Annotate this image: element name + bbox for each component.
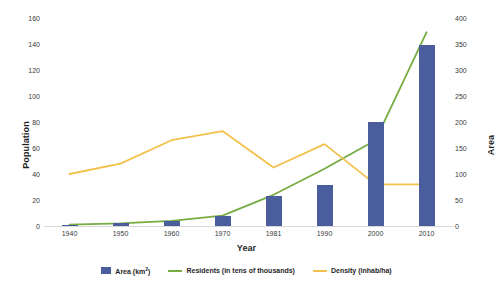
legend-swatch-bar-icon: [101, 267, 111, 274]
y-tick-right-200: 200: [455, 119, 467, 126]
y-tick-left-80: 80: [32, 119, 40, 126]
x-axis-title: Year: [0, 243, 493, 253]
y-tick-left-120: 120: [28, 67, 40, 74]
y-tick-right-300: 300: [455, 67, 467, 74]
bar-1981: [266, 196, 282, 226]
line-series-svg: [44, 18, 452, 226]
y-tick-right-400: 400: [455, 15, 467, 22]
y-axis-left-ticks: 020406080100120140160: [18, 0, 40, 290]
y-axis-right-ticks: 050100150200250300350400: [455, 0, 481, 290]
y-tick-left-160: 160: [28, 15, 40, 22]
x-tick-1950: 1950: [113, 230, 129, 237]
y-tick-left-20: 20: [32, 197, 40, 204]
legend-item-area[interactable]: Area (km2): [101, 266, 150, 275]
y-tick-right-150: 150: [455, 145, 467, 152]
y-axis-title-right: Area: [486, 135, 496, 155]
legend-item-density[interactable]: Density (inhab/ha): [313, 267, 392, 274]
chart-legend: Area (km2)Residents (in tens of thousand…: [0, 266, 493, 275]
x-tick-2000: 2000: [368, 230, 384, 237]
y-tick-right-250: 250: [455, 93, 467, 100]
y-tick-left-60: 60: [32, 145, 40, 152]
x-tick-1981: 1981: [266, 230, 282, 237]
legend-swatch-line-icon: [168, 270, 182, 272]
y-tick-left-100: 100: [28, 93, 40, 100]
legend-swatch-line-icon: [313, 270, 327, 272]
y-tick-right-350: 350: [455, 41, 467, 48]
bar-1960: [164, 221, 180, 226]
y-tick-right-0: 0: [455, 223, 459, 230]
y-tick-left-0: 0: [36, 223, 40, 230]
bar-1940: [62, 225, 78, 227]
plot-area: [44, 18, 452, 226]
legend-label: Density (inhab/ha): [331, 267, 392, 274]
x-tick-1990: 1990: [317, 230, 333, 237]
legend-item-residents[interactable]: Residents (in tens of thousands): [168, 267, 295, 274]
x-axis-line: [44, 226, 454, 227]
x-axis-ticks: 19401950196019701981199020002010: [0, 230, 493, 244]
y-tick-right-100: 100: [455, 171, 467, 178]
legend-label: Residents (in tens of thousands): [186, 267, 295, 274]
x-tick-1960: 1960: [164, 230, 180, 237]
bar-2010: [419, 45, 435, 226]
bar-1990: [317, 185, 333, 226]
y-tick-right-50: 50: [455, 197, 463, 204]
bar-1970: [215, 216, 231, 226]
x-tick-2010: 2010: [419, 230, 435, 237]
y-tick-left-140: 140: [28, 41, 40, 48]
legend-label: Area (km2): [115, 266, 150, 275]
y-tick-left-40: 40: [32, 171, 40, 178]
bar-2000: [368, 122, 384, 226]
x-tick-1940: 1940: [62, 230, 78, 237]
x-tick-1970: 1970: [215, 230, 231, 237]
bar-1950: [113, 223, 129, 226]
